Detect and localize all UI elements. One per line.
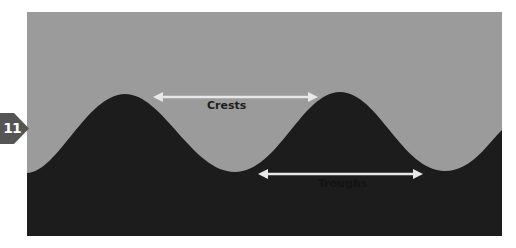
wave-illustration (27, 12, 502, 236)
figure-number: 11 (2, 119, 22, 137)
figure-number-badge: 11 (0, 113, 30, 144)
crests-label: Crests (207, 99, 246, 112)
wave-diagram (27, 12, 502, 236)
troughs-label: Troughs (318, 177, 367, 190)
